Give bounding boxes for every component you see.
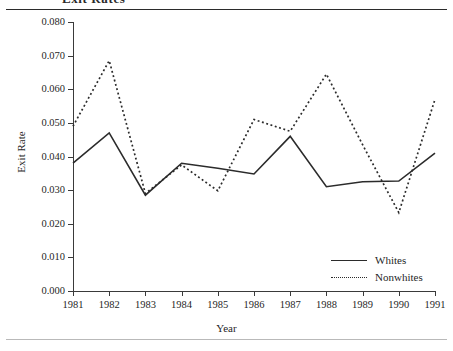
series-line-whites: [73, 133, 435, 195]
series-plot: [0, 0, 453, 351]
series-line-nonwhites: [73, 61, 435, 213]
legend-label: Nonwhites: [375, 269, 423, 285]
legend-swatch-whites: [331, 260, 367, 261]
chart-figure: Exit Rates 0.0000.0100.0200.0300.0400.05…: [0, 0, 453, 351]
legend-swatch-nonwhites: [331, 277, 367, 278]
legend-label: Whites: [375, 252, 406, 268]
